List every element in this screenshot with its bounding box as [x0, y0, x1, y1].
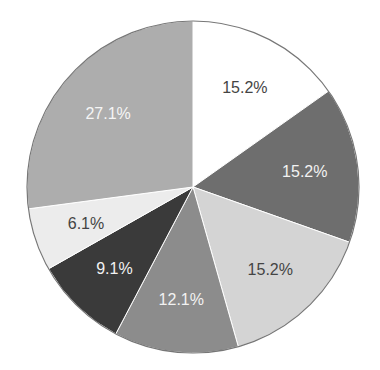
slice-label-0: 15.2% — [222, 79, 267, 96]
pie-chart: 15.2%15.2%15.2%12.1%9.1%6.1%27.1% — [0, 0, 380, 370]
slice-label-1: 15.2% — [282, 163, 327, 180]
slice-label-3: 12.1% — [159, 291, 204, 308]
slice-label-2: 15.2% — [248, 261, 293, 278]
slice-label-6: 27.1% — [85, 105, 130, 122]
slice-label-4: 9.1% — [96, 260, 132, 277]
slice-label-5: 6.1% — [68, 215, 104, 232]
